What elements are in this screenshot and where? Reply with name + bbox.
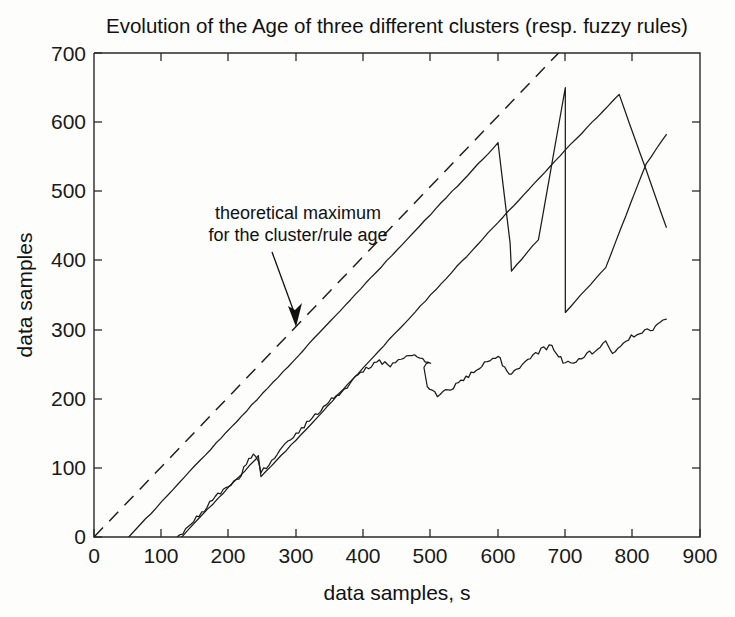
x-tick-label: 700 — [547, 544, 582, 567]
y-tick-label: 400 — [51, 248, 86, 271]
y-axis-tickmarks — [94, 53, 700, 537]
plot-frame — [94, 53, 700, 537]
x-tick-label: 500 — [412, 544, 447, 567]
annotation-line-1: theoretical maximum — [215, 203, 381, 223]
x-tick-label: 800 — [614, 544, 649, 567]
series-line-2 — [129, 88, 666, 537]
chart-figure: 0 100 200 300 400 500 600 700 800 900 0 … — [0, 0, 735, 617]
x-tick-label: 100 — [143, 544, 178, 567]
y-tick-label: 100 — [51, 456, 86, 479]
annotation-line-2: for the cluster/rule age — [208, 225, 387, 245]
y-axis-ticklabels: 0 100 200 300 400 500 600 700 — [51, 42, 86, 548]
y-tick-label: 500 — [51, 179, 86, 202]
x-tick-label: 900 — [682, 544, 717, 567]
x-tick-label: 200 — [210, 544, 245, 567]
y-tick-label: 700 — [51, 42, 86, 65]
x-tick-label: 400 — [345, 544, 380, 567]
x-axis-ticklabels: 0 100 200 300 400 500 600 700 800 900 — [88, 544, 717, 567]
series-line-3 — [182, 94, 667, 537]
x-axis-title: data samples, s — [323, 581, 470, 604]
x-tick-label: 600 — [480, 544, 515, 567]
y-tick-label: 600 — [51, 110, 86, 133]
chart-title: Evolution of the Age of three different … — [106, 14, 688, 37]
series-line-1 — [94, 53, 559, 537]
y-axis-title: data samples — [13, 233, 36, 358]
y-tick-label: 200 — [51, 387, 86, 410]
x-tick-label: 300 — [278, 544, 313, 567]
y-tick-label: 0 — [74, 525, 86, 548]
x-tick-label: 0 — [88, 544, 100, 567]
x-axis-tickmarks — [94, 53, 700, 537]
y-tick-label: 300 — [51, 318, 86, 341]
chart-canvas: 0 100 200 300 400 500 600 700 800 900 0 … — [0, 0, 735, 617]
series-line-4 — [177, 319, 666, 536]
annotation-group: theoretical maximum for the cluster/rule… — [208, 203, 387, 327]
annotation-arrow-line — [272, 252, 294, 312]
data-series-layer — [94, 53, 666, 537]
